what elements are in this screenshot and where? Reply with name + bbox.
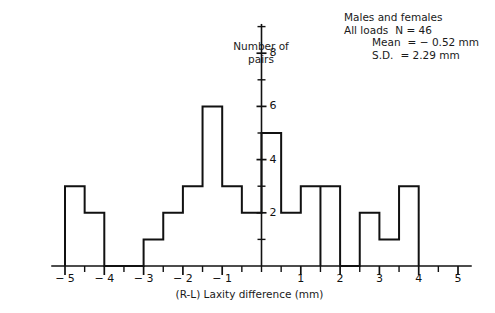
x-axis-tick-label: 1 bbox=[286, 272, 316, 285]
histogram-bar bbox=[222, 186, 242, 266]
histogram-bar bbox=[399, 186, 419, 266]
chart-figure: Males and females All loadsN = 46 Mean= … bbox=[0, 0, 495, 313]
x-axis-tick-label: 2 bbox=[325, 272, 355, 285]
x-axis-title-text: (R-L) Laxity difference (mm) bbox=[176, 288, 324, 300]
histogram-bar bbox=[203, 106, 223, 266]
x-axis-tick-label: 5 bbox=[443, 272, 473, 285]
histogram-bar bbox=[85, 213, 105, 266]
histogram-bar bbox=[301, 186, 321, 266]
histogram-bar bbox=[320, 186, 340, 266]
x-axis-tick-label: − 2 bbox=[168, 272, 198, 285]
histogram-bar bbox=[360, 213, 380, 266]
x-axis-tick-label: 4 bbox=[404, 272, 434, 285]
histogram-bar bbox=[65, 186, 85, 266]
x-axis-tick-label: − 3 bbox=[129, 272, 159, 285]
y-axis-tick-label: 2 bbox=[270, 206, 284, 219]
histogram-plot bbox=[0, 0, 495, 313]
histogram-bar bbox=[144, 239, 164, 266]
y-axis-tick-label: 8 bbox=[270, 46, 284, 59]
histogram-bar bbox=[163, 213, 183, 266]
y-axis-tick-label: 6 bbox=[270, 99, 284, 112]
y-axis-tick-label: 4 bbox=[270, 153, 284, 166]
histogram-bar bbox=[242, 213, 262, 266]
x-axis-tick-label: − 1 bbox=[207, 272, 237, 285]
histogram-bar bbox=[379, 239, 399, 266]
histogram-bar bbox=[281, 213, 301, 266]
histogram-bar bbox=[183, 186, 203, 266]
x-axis-tick-label: 3 bbox=[364, 272, 394, 285]
x-axis-tick-label: − 5 bbox=[50, 272, 80, 285]
x-axis-tick-label: − 4 bbox=[89, 272, 119, 285]
x-axis-title: (R-L) Laxity difference (mm) bbox=[0, 288, 495, 300]
